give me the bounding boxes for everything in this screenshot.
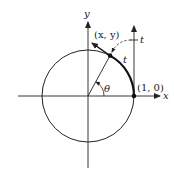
t-axis-label: t <box>140 34 145 45</box>
wrap-arrow <box>112 40 131 52</box>
theta-arc <box>96 82 104 96</box>
point-xy-label: (x, y) <box>94 29 120 40</box>
point-xy <box>108 53 113 58</box>
arc-t <box>110 56 134 96</box>
tangent-arrow <box>92 43 110 56</box>
y-axis-label: y <box>83 8 90 19</box>
theta-label: θ <box>104 83 110 94</box>
arc-t-label: t <box>123 54 128 65</box>
x-axis-label: x <box>163 90 169 101</box>
unit-circle-diagram: y x t (x, y) (1, 0) t θ <box>0 0 174 178</box>
point-1-0 <box>132 94 137 99</box>
point-1-0-label: (1, 0) <box>137 82 164 93</box>
